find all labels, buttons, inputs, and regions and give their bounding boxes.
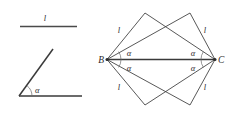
lower-triangle-two (107, 60, 215, 106)
angle-label-b-lower: α (127, 63, 132, 73)
vertex-c-dot (214, 58, 217, 61)
angle-arc-c-lower (201, 60, 203, 68)
point-c-label: C (218, 55, 225, 65)
upper-triangle-two (107, 13, 215, 60)
geometry-figure: l α B C l l l l α α α α (0, 0, 233, 118)
lower-triangle-one (107, 60, 215, 106)
given-segment-label: l (44, 13, 47, 23)
angle-label-c-lower: α (191, 63, 196, 73)
figure-canvas: l α B C l l l l α α α α (0, 0, 233, 118)
side-label-upper-right: l (204, 25, 207, 35)
angle-label-c-upper: α (191, 48, 196, 58)
construction-group (106, 13, 217, 105)
point-b-label: B (98, 55, 104, 65)
upper-triangle-one (107, 13, 215, 60)
angle-arc-c-upper (201, 52, 203, 60)
given-angle-label: α (35, 85, 40, 95)
given-angle-group (19, 49, 82, 96)
given-angle-arc (27, 86, 32, 96)
side-label-upper-left: l (118, 25, 121, 35)
angle-label-b-upper: α (127, 48, 132, 58)
side-label-lower-left: l (118, 82, 121, 92)
side-label-lower-right: l (204, 82, 207, 92)
vertex-b-dot (106, 58, 109, 61)
